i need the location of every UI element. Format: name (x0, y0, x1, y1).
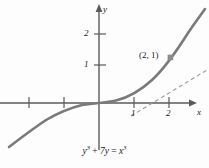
curve-path (9, 9, 205, 147)
equation-exponent-right: 3 (123, 144, 126, 151)
equation-equals: = (109, 146, 119, 156)
y-axis-ticks (94, 34, 106, 65)
y-axis (96, 4, 103, 150)
y-tick-label-2: 2 (84, 29, 89, 38)
point-label-2-1: (2, 1) (139, 51, 159, 60)
point-marker (168, 55, 174, 61)
x-tick-label-1: 1 (131, 109, 136, 118)
y-tick-label-1: 1 (84, 60, 89, 69)
x-tick-label-2: 2 (166, 109, 171, 118)
equation-caption: y3 + 7y = x3 (0, 147, 209, 157)
figure-container: 2 1 1 2 y x (2, 1) y3 + 7y = x3 (0, 0, 209, 168)
equation-seven-y: 7y (100, 146, 109, 156)
plot-svg (0, 0, 209, 168)
x-axis-label: x (197, 108, 201, 117)
equation-plus: + (90, 146, 100, 156)
y-axis-label: y (103, 5, 107, 14)
